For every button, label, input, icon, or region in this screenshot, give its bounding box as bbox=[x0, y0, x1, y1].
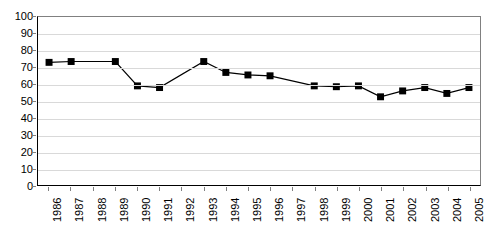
y-axis-tick bbox=[32, 33, 36, 34]
x-axis-tick bbox=[48, 187, 49, 191]
x-axis-tick bbox=[359, 187, 360, 191]
x-axis-tick bbox=[115, 187, 116, 191]
x-axis-tick-label: 1998 bbox=[319, 198, 330, 222]
x-axis-tick bbox=[70, 187, 71, 191]
x-axis-tick-label: 2003 bbox=[430, 198, 441, 222]
x-axis-tick-label: 1997 bbox=[296, 198, 307, 222]
y-axis-tick bbox=[32, 118, 36, 119]
x-axis-tick bbox=[204, 187, 205, 191]
x-axis-tick-label: 1994 bbox=[230, 198, 241, 222]
x-axis-tick bbox=[270, 187, 271, 191]
x-axis-tick-label: 1992 bbox=[185, 198, 196, 222]
y-axis-tick bbox=[32, 67, 36, 68]
x-axis-tick bbox=[426, 187, 427, 191]
y-axis-tick bbox=[32, 84, 36, 85]
x-axis-tick bbox=[448, 187, 449, 191]
y-axis-tick bbox=[32, 50, 36, 51]
x-axis-tick-label: 2004 bbox=[452, 198, 463, 222]
x-axis-tick-label: 2002 bbox=[407, 198, 418, 222]
x-axis-tick-label: 1986 bbox=[52, 198, 63, 222]
x-axis-tick-label: 1996 bbox=[274, 198, 285, 222]
x-axis-tick-label: 2005 bbox=[474, 198, 485, 222]
x-axis-tick bbox=[337, 187, 338, 191]
x-axis-tick-label: 1989 bbox=[119, 198, 130, 222]
x-axis-tick bbox=[248, 187, 249, 191]
x-axis-tick-label: 1987 bbox=[74, 198, 85, 222]
y-axis-tick bbox=[32, 101, 36, 102]
x-axis-tick bbox=[403, 187, 404, 191]
x-axis-tick-label: 1993 bbox=[208, 198, 219, 222]
x-axis-tick-label: 1999 bbox=[341, 198, 352, 222]
x-axis-tick bbox=[292, 187, 293, 191]
x-axis-tick bbox=[226, 187, 227, 191]
x-axis-tick bbox=[470, 187, 471, 191]
line-chart: 0102030405060708090100 19861987198819891… bbox=[0, 0, 493, 234]
x-axis-tick bbox=[181, 187, 182, 191]
x-axis-tick bbox=[159, 187, 160, 191]
x-axis-tick bbox=[315, 187, 316, 191]
y-axis-tick bbox=[32, 186, 36, 187]
x-axis-tick-label: 1991 bbox=[163, 198, 174, 222]
y-axis-tick bbox=[32, 169, 36, 170]
x-axis-tick-label: 1988 bbox=[97, 198, 108, 222]
x-axis: 1986198719881989199019911992199319941995… bbox=[0, 0, 493, 234]
x-axis-tick-label: 1990 bbox=[141, 198, 152, 222]
x-axis-tick-label: 2000 bbox=[363, 198, 374, 222]
x-axis-tick bbox=[381, 187, 382, 191]
y-axis-tick bbox=[32, 152, 36, 153]
x-axis-tick-label: 2001 bbox=[385, 198, 396, 222]
x-axis-tick bbox=[137, 187, 138, 191]
y-axis-tick bbox=[32, 135, 36, 136]
y-axis-tick bbox=[32, 16, 36, 17]
x-axis-tick bbox=[93, 187, 94, 191]
x-axis-tick-label: 1995 bbox=[252, 198, 263, 222]
